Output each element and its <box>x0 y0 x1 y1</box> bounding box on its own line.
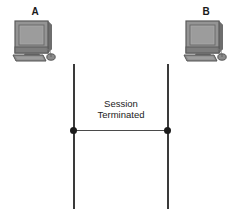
message-label: Session Terminated <box>78 98 164 120</box>
message-connector-line <box>74 130 168 131</box>
host-a-timeline <box>73 64 75 209</box>
host-b-label: B <box>196 6 216 17</box>
message-endpoint-dot-left <box>70 127 77 134</box>
host-a-label: A <box>25 6 45 17</box>
message-endpoint-dot-right <box>164 127 171 134</box>
desktop-computer-icon <box>183 19 231 63</box>
host-b-timeline <box>167 64 169 209</box>
desktop-computer-icon <box>12 19 60 63</box>
session-terminated-diagram: A B <box>0 0 243 217</box>
message-label-line-1: Session <box>78 98 164 109</box>
message-label-line-2: Terminated <box>78 109 164 120</box>
